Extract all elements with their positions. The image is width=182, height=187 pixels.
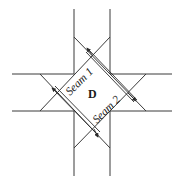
seam-diagram: Seam 1 Seam 2 D <box>0 0 182 187</box>
diagram-canvas: Seam 1 Seam 2 D <box>0 0 182 187</box>
arrow-down-icon <box>94 129 98 137</box>
region-d-label: D <box>88 87 97 101</box>
